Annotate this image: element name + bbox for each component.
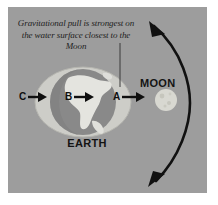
earth-label: EARTH <box>57 137 117 149</box>
moon-crater-4 <box>169 93 172 96</box>
diagram-panel: Gravitational pull is strongest on the w… <box>8 7 207 193</box>
annotation-text: Gravitational pull is strongest on the w… <box>14 18 138 53</box>
point-c-label: C <box>19 91 26 102</box>
moon-body <box>155 89 177 111</box>
force-arrow-a-head-icon <box>136 92 145 102</box>
orbit-arrow-down-icon <box>148 171 165 187</box>
point-b-label: B <box>65 91 72 102</box>
moon-label: MOON <box>140 77 175 89</box>
tidal-force-diagram: Gravitational pull is strongest on the w… <box>0 0 218 205</box>
point-a-label: A <box>113 91 120 102</box>
moon-crater-2 <box>167 101 171 105</box>
moon-crater-3 <box>164 105 167 108</box>
moon-crater-1 <box>160 94 165 99</box>
